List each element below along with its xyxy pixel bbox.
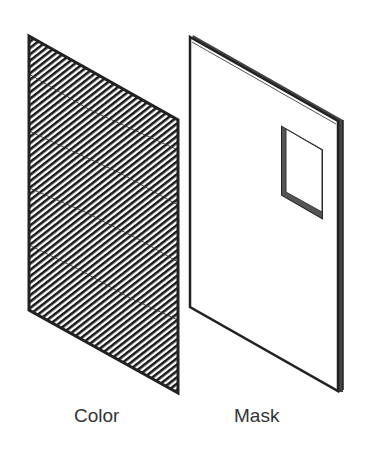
color-panel — [29, 36, 178, 393]
mask-panel — [190, 35, 343, 392]
mask-label: Mask — [234, 405, 279, 427]
layers-diagram — [0, 0, 365, 457]
color-label: Color — [74, 405, 119, 427]
